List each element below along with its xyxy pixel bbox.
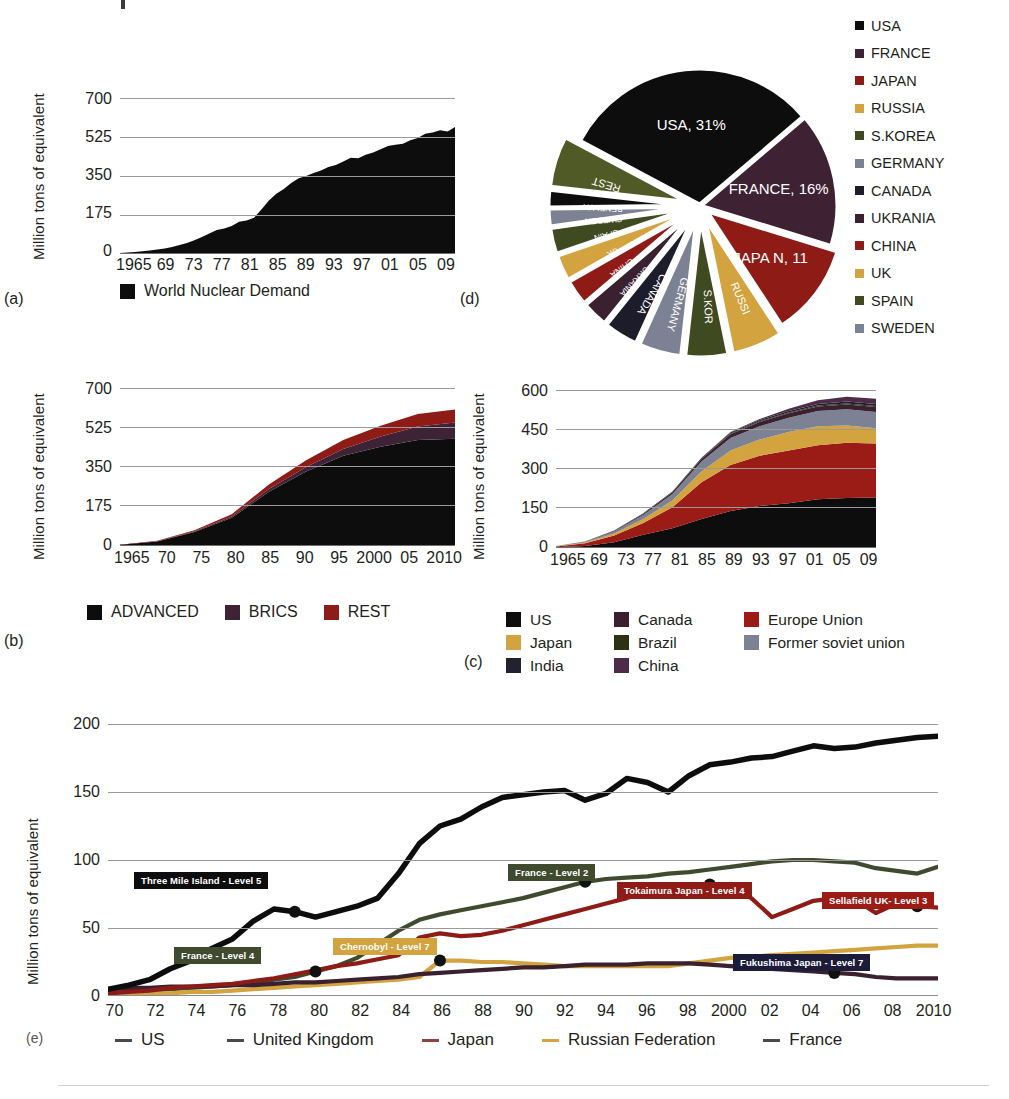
legend-swatch-icon [87, 605, 102, 620]
panel-e-ytick-0: 0 [40, 987, 100, 1005]
panel-b-xtick: 80 [219, 549, 253, 567]
legend-item-usa: USA [855, 12, 944, 40]
panel-c-ytick-600: 600 [488, 382, 548, 400]
panel-a-xtick: 97 [348, 256, 376, 274]
panel-c-xtick: 81 [666, 551, 693, 569]
panel-a-ytick-350: 350 [50, 166, 112, 184]
panel-b-xtick: 2010 [426, 549, 462, 567]
panel-b-y-axis-label: Million tons of equivalent [30, 370, 47, 560]
legend-swatch-icon [614, 635, 629, 650]
panel-a-xtick: 1965 [116, 256, 152, 274]
legend-item-united-kingdom: United Kingdom [227, 1030, 374, 1050]
legend-swatch-icon [855, 241, 864, 250]
scan-artifact-mark [121, 0, 125, 9]
legend-line-icon [542, 1039, 559, 1042]
panel-a: Million tons of equivalent 700 525 350 1… [0, 60, 470, 320]
legend-swatch-icon [855, 131, 864, 140]
panel-c-xtick: 85 [693, 551, 720, 569]
panel-e-ytick-100: 100 [40, 851, 100, 869]
legend-swatch-icon [744, 635, 759, 650]
legend-label: Europe Union [768, 611, 863, 629]
legend-item-skorea: S.KOREA [855, 122, 944, 150]
legend-swatch-icon [855, 324, 864, 333]
legend-swatch-icon [614, 612, 629, 627]
legend-label: Brazil [638, 634, 677, 652]
legend-swatch-icon [855, 76, 864, 85]
panel-a-xtick: 89 [292, 256, 320, 274]
panel-c-plot [556, 390, 876, 548]
panel-a-id: (a) [4, 290, 24, 308]
legend-label: World Nuclear Demand [144, 282, 310, 300]
panel-e-xtick: 74 [176, 1002, 217, 1020]
panel-e-x-axis: 70 72 74 76 78 80 82 84 86 88 90 92 94 9… [94, 1002, 954, 1020]
panel-e-xtick: 98 [667, 1002, 708, 1020]
panel-c-x-axis: 1965 69 73 77 81 85 89 93 97 01 05 09 [550, 551, 882, 569]
annotation-france-level-2: France - Level 2 [508, 864, 595, 881]
legend-item-japan: Japan [506, 631, 588, 654]
panel-c-xtick: 97 [774, 551, 801, 569]
legend-label: Russian Federation [568, 1030, 715, 1050]
panel-c-ytick-150: 150 [488, 499, 548, 517]
panel-d: USA, 31%FRANCE, 16%JAPA N, 11RUSSIS.KORG… [460, 0, 1009, 360]
panel-e-xtick: 96 [626, 1002, 667, 1020]
legend-item-japan: Japan [422, 1030, 494, 1050]
legend-item-france: FRANCE [855, 40, 944, 68]
legend-swatch-icon [855, 296, 864, 305]
legend-swatch-icon [744, 612, 759, 627]
panel-b-xtick: 85 [253, 549, 287, 567]
legend-item-germany: GERMANY [855, 150, 944, 178]
legend-label: Former soviet union [768, 634, 905, 652]
legend-label: RUSSIA [871, 100, 925, 116]
panel-c-xtick: 1965 [550, 551, 586, 569]
panel-c-stacked-area-series [556, 390, 876, 548]
legend-label: GERMANY [871, 155, 944, 171]
legend-line-icon [115, 1039, 132, 1042]
legend-label: UKRANIA [871, 210, 935, 226]
legend-item-former-soviet-union: Former soviet union [744, 631, 905, 654]
legend-label: United Kingdom [253, 1030, 374, 1050]
annotation-chernobyl: Chernobyl - Level 7 [333, 938, 437, 955]
panel-e-xtick: 02 [749, 1002, 790, 1020]
panel-e-id: (e) [26, 1030, 43, 1046]
legend-label: JAPAN [871, 73, 917, 89]
panel-c-xtick: 93 [747, 551, 774, 569]
legend-label: BRICS [249, 603, 298, 621]
panel-b-ytick-0: 0 [50, 536, 112, 554]
panel-c-xtick: 09 [855, 551, 882, 569]
legend-label: China [638, 657, 679, 675]
legend-swatch-icon [324, 605, 339, 620]
panel-d-pie-chart: USA, 31%FRANCE, 16%JAPA N, 11RUSSIS.KORG… [500, 58, 900, 358]
panel-e-xtick: 82 [340, 1002, 381, 1020]
panel-a-xtick: 09 [432, 256, 460, 274]
page-bottom-rule [58, 1085, 989, 1086]
legend-item-advanced: ADVANCED [87, 603, 199, 621]
legend-item-canada: Canada [614, 608, 718, 631]
legend-label: UK [871, 265, 891, 281]
legend-swatch-icon [855, 186, 864, 195]
panel-c-ytick-0: 0 [488, 538, 548, 556]
legend-label: SPAIN [871, 293, 913, 309]
legend-item-brics: BRICS [225, 603, 298, 621]
panel-c-xtick: 77 [640, 551, 667, 569]
svg-text:FRANCE, 16%: FRANCE, 16% [729, 180, 829, 197]
legend-line-icon [227, 1039, 244, 1042]
panel-c-xtick: 05 [828, 551, 855, 569]
panel-e-ytick-150: 150 [40, 783, 100, 801]
annotation-france-level-4: France - Level 4 [174, 947, 261, 964]
panel-b-xtick: 95 [322, 549, 356, 567]
legend-item-sweden: SWEDEN [855, 315, 944, 343]
legend-swatch-icon [225, 605, 240, 620]
panel-e-xtick: 92 [544, 1002, 585, 1020]
panel-a-xtick: 77 [208, 256, 236, 274]
legend-label: CANADA [871, 183, 931, 199]
legend-item-spain: SPAIN [855, 287, 944, 315]
panel-b-xtick: 70 [150, 549, 184, 567]
svg-text:JAPA N, 11: JAPA N, 11 [733, 249, 807, 266]
panel-c-ytick-300: 300 [488, 460, 548, 478]
legend-label: ADVANCED [111, 603, 199, 621]
legend-label: USA [871, 18, 901, 34]
panel-e-xtick: 78 [258, 1002, 299, 1020]
panel-b-xtick: 75 [184, 549, 218, 567]
panel-e-xtick: 04 [790, 1002, 831, 1020]
legend-item-europe-union: Europe Union [744, 608, 905, 631]
